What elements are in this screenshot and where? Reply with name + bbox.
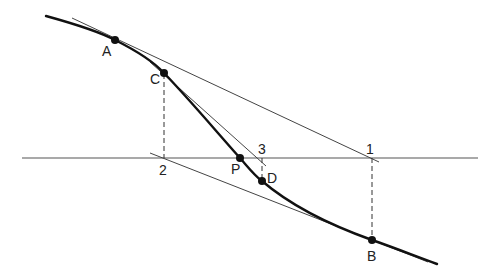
label-b: B xyxy=(367,248,376,264)
label-d: D xyxy=(267,170,277,186)
label-c: C xyxy=(150,71,160,87)
point-b xyxy=(368,236,376,244)
label-3: 3 xyxy=(258,141,266,157)
label-1: 1 xyxy=(366,141,374,157)
label-p: P xyxy=(231,161,240,177)
label-2: 2 xyxy=(159,162,167,178)
point-d xyxy=(258,177,266,185)
point-c xyxy=(160,69,168,77)
point-a xyxy=(111,36,119,44)
curve-construction-diagram: A C P D B 1 2 3 xyxy=(0,0,494,275)
label-a: A xyxy=(102,43,112,59)
